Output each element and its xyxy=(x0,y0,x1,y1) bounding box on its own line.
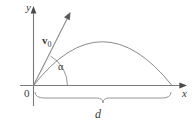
origin-label: 0 xyxy=(24,88,30,99)
x-axis-label: x xyxy=(182,88,187,99)
y-axis-label: y xyxy=(26,2,31,13)
initial-velocity-label: v0 xyxy=(42,35,52,49)
launch-angle-label: α xyxy=(58,62,63,72)
projectile-motion-figure: y x 0 v0 α d xyxy=(0,0,196,128)
range-brace xyxy=(35,92,171,103)
range-label: d xyxy=(95,108,101,120)
initial-velocity-label-subscript: 0 xyxy=(48,40,52,49)
y-axis-arrowhead xyxy=(31,6,37,14)
initial-velocity-vector xyxy=(34,18,68,86)
trajectory-curve xyxy=(34,42,173,86)
